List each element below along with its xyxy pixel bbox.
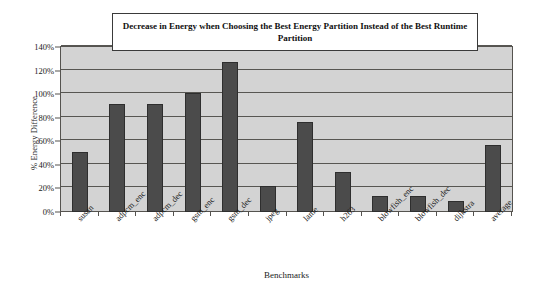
chart-title-box: Decrease in Energy when Choosing the Bes… xyxy=(112,13,478,51)
bar[interactable] xyxy=(147,104,163,212)
bar[interactable] xyxy=(185,93,201,212)
y-tick-label: 80% xyxy=(38,113,54,123)
bar-slot xyxy=(362,47,400,212)
bar-slot xyxy=(287,47,325,212)
bar[interactable] xyxy=(72,152,88,212)
x-axis-labels: susanadpcm_encadpcm_decgsm_encgsm_decjpe… xyxy=(60,216,513,272)
bar-slot xyxy=(136,47,174,212)
bar[interactable] xyxy=(485,145,501,212)
chart-title: Decrease in Energy when Choosing the Bes… xyxy=(119,20,471,44)
bar[interactable] xyxy=(109,104,125,212)
y-tick-label: 40% xyxy=(38,160,54,170)
bar-slot xyxy=(61,47,99,212)
bar-chart: % Energy Difference 0%20%40%60%80%100%12… xyxy=(0,0,548,297)
y-tick-label: 60% xyxy=(38,136,54,146)
y-tick-label: 140% xyxy=(34,42,54,52)
bar-slot xyxy=(174,47,212,212)
x-axis-title: Benchmarks xyxy=(60,270,513,280)
y-tick-label: 120% xyxy=(34,66,54,76)
y-tick-label: 20% xyxy=(38,183,54,193)
bar-slot xyxy=(324,47,362,212)
bar-slot xyxy=(99,47,137,212)
y-tick-label: 0% xyxy=(43,207,54,217)
bar-slot xyxy=(474,47,512,212)
y-axis-ticks: 0%20%40%60%80%100%120%140% xyxy=(0,46,60,212)
y-tick-label: 100% xyxy=(34,89,54,99)
bar[interactable] xyxy=(297,122,313,212)
bar-slot xyxy=(211,47,249,212)
bar[interactable] xyxy=(222,62,238,212)
bar-slot xyxy=(249,47,287,212)
